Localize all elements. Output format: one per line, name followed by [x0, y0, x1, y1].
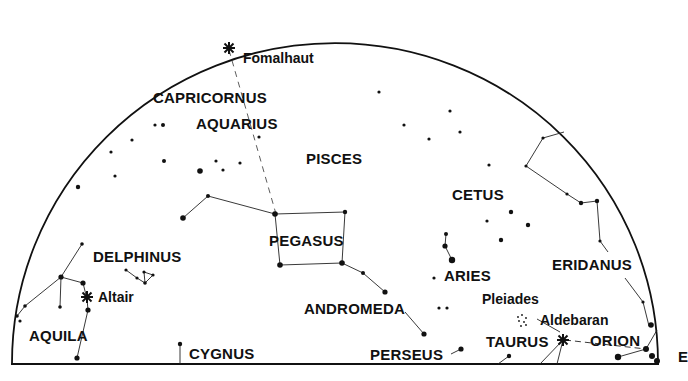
- pleiades-cluster-icon: [517, 314, 527, 327]
- label-eridanus: ERIDANUS: [552, 257, 632, 272]
- label-cetus: CETUS: [452, 187, 504, 202]
- eridanus-lines: [526, 132, 649, 326]
- label-capricornus: CAPRICORNUS: [153, 90, 267, 105]
- label-aquarius: AQUARIUS: [196, 116, 278, 131]
- delphinus-lines: [126, 270, 153, 283]
- andromeda-lines: [342, 263, 424, 334]
- pointer-line-fomalhaut: [229, 50, 276, 214]
- fomalhaut-star-icon: [223, 42, 235, 54]
- pegasus-lines: [183, 196, 345, 265]
- label-altair: Altair: [98, 290, 134, 304]
- aldebaran-star-icon: [557, 334, 569, 346]
- label-andromeda: ANDROMEDA: [304, 301, 405, 316]
- label-pleiades: Pleiades: [482, 292, 539, 306]
- label-cygnus: CYGNUS: [189, 346, 254, 361]
- label-orion: ORION: [590, 333, 640, 348]
- label-aquila: AQUILA: [29, 328, 88, 343]
- altair-star-icon: [81, 291, 93, 303]
- label-pegasus: PEGASUS: [269, 233, 344, 248]
- label-delphinus: DELPHINUS: [93, 249, 181, 264]
- label-fomalhaut: Fomalhaut: [243, 51, 314, 65]
- label-aldebaran: Aldebaran: [540, 313, 608, 327]
- horizon-direction-east: E: [678, 349, 688, 364]
- label-pisces: PISCES: [306, 151, 362, 166]
- label-taurus: TAURUS: [486, 334, 549, 349]
- label-aries: ARIES: [444, 268, 491, 283]
- label-perseus: PERSEUS: [370, 347, 443, 362]
